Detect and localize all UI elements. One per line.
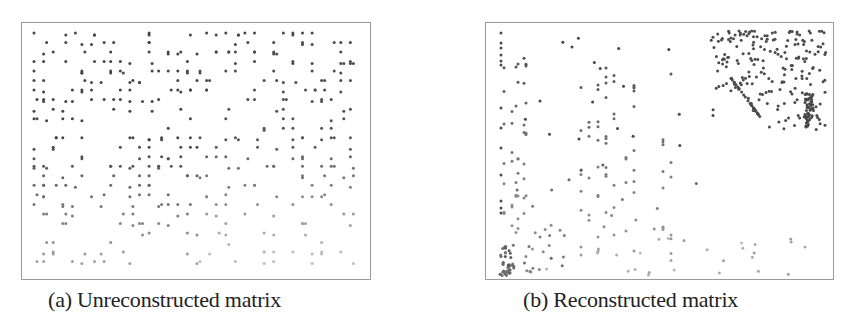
- matrix-entry: [93, 260, 96, 263]
- matrix-entry: [33, 110, 36, 113]
- matrix-entry: [548, 234, 551, 237]
- matrix-entry: [301, 222, 304, 225]
- matrix-entry: [591, 101, 594, 104]
- matrix-entry: [122, 72, 125, 75]
- matrix-entry: [721, 63, 724, 66]
- matrix-entry: [45, 41, 48, 44]
- matrix-entry: [128, 136, 131, 139]
- matrix-entry: [610, 214, 613, 217]
- matrix-entry: [131, 165, 134, 168]
- matrix-entry: [500, 107, 503, 110]
- matrix-entry: [141, 233, 144, 236]
- matrix-entry: [752, 44, 755, 47]
- matrix-entry: [819, 122, 822, 125]
- matrix-entry: [282, 98, 285, 101]
- matrix-entry: [597, 247, 600, 250]
- matrix-entry: [196, 146, 199, 149]
- matrix-entry: [224, 193, 227, 196]
- matrix-entry: [741, 247, 744, 250]
- matrix-entry: [613, 117, 616, 120]
- matrix-entry: [42, 174, 45, 177]
- matrix-entry: [33, 184, 36, 187]
- matrix-entry: [151, 100, 154, 103]
- matrix-entry: [517, 195, 520, 198]
- matrix-entry: [311, 195, 314, 198]
- matrix-entry: [783, 102, 786, 105]
- matrix-entry: [770, 90, 773, 93]
- matrix-entry: [588, 176, 591, 179]
- matrix-entry: [523, 82, 526, 85]
- matrix-entry: [597, 235, 600, 238]
- matrix-entry: [818, 118, 821, 121]
- matrix-entry: [503, 162, 506, 165]
- matrix-entry: [500, 42, 503, 45]
- matrix-entry: [776, 108, 779, 111]
- matrix-entry: [515, 66, 518, 69]
- matrix-entry: [282, 91, 285, 94]
- matrix-entry: [90, 89, 93, 92]
- matrix-entry: [33, 203, 36, 206]
- matrix-entry: [740, 242, 743, 245]
- matrix-entry: [157, 165, 160, 168]
- matrix-entry: [148, 32, 151, 35]
- matrix-entry: [767, 77, 770, 80]
- matrix-entry: [52, 251, 55, 254]
- matrix-entry: [349, 155, 352, 158]
- unreconstructed-matrix-dots: [22, 23, 370, 279]
- matrix-entry: [128, 195, 131, 198]
- matrix-entry: [246, 157, 249, 160]
- matrix-entry: [64, 184, 67, 187]
- matrix-entry: [670, 252, 673, 255]
- matrix-entry: [803, 115, 806, 118]
- matrix-entry: [725, 65, 728, 68]
- matrix-entry: [52, 241, 55, 244]
- matrix-entry: [320, 79, 323, 82]
- matrix-entry: [42, 184, 45, 187]
- matrix-entry: [352, 167, 355, 170]
- matrix-entry: [756, 58, 759, 61]
- matrix-entry: [176, 89, 179, 92]
- matrix-entry: [810, 100, 813, 103]
- matrix-entry: [208, 79, 211, 82]
- caption-reconstructed: (b) Reconstructed matrix: [523, 287, 738, 313]
- matrix-entry: [33, 117, 36, 120]
- matrix-entry: [747, 71, 750, 74]
- matrix-entry: [320, 165, 323, 168]
- matrix-entry: [511, 110, 514, 113]
- matrix-entry: [215, 146, 218, 149]
- matrix-entry: [342, 212, 345, 215]
- matrix-entry: [339, 91, 342, 94]
- matrix-entry: [160, 203, 163, 206]
- matrix-entry: [523, 162, 526, 165]
- matrix-entry: [71, 260, 74, 263]
- matrix-entry: [605, 96, 608, 99]
- matrix-entry: [548, 133, 551, 136]
- matrix-entry: [148, 41, 151, 44]
- matrix-entry: [71, 165, 74, 168]
- matrix-entry: [729, 89, 732, 92]
- matrix-entry: [717, 85, 720, 88]
- matrix-entry: [103, 193, 106, 196]
- matrix-entry: [763, 48, 766, 51]
- matrix-entry: [218, 231, 221, 234]
- matrix-entry: [291, 34, 294, 37]
- matrix-entry: [695, 182, 698, 185]
- matrix-entry: [774, 51, 777, 54]
- matrix-entry: [750, 104, 753, 107]
- matrix-entry: [509, 256, 512, 259]
- matrix-entry: [80, 136, 83, 139]
- matrix-entry: [597, 195, 600, 198]
- matrix-entry: [90, 98, 93, 101]
- matrix-entry: [291, 203, 294, 206]
- matrix-entry: [61, 110, 64, 113]
- matrix-entry: [291, 62, 294, 65]
- matrix-entry: [122, 212, 125, 215]
- matrix-entry: [525, 65, 528, 68]
- matrix-entry: [33, 70, 36, 73]
- matrix-entry: [511, 224, 514, 227]
- matrix-entry: [141, 222, 144, 225]
- matrix-entry: [205, 195, 208, 198]
- matrix-entry: [783, 51, 786, 54]
- matrix-entry: [722, 84, 725, 87]
- matrix-entry: [747, 99, 750, 102]
